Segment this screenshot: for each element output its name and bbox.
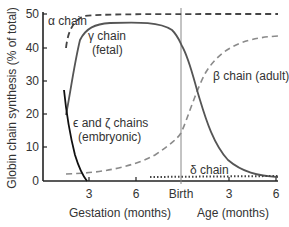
y-axis-label: Globin chain synthesis (% of total) bbox=[5, 7, 19, 188]
x-tick-birth: Birth bbox=[169, 187, 194, 201]
y-tick-30: 30 bbox=[26, 74, 40, 88]
beta-chain-label: β chain (adult) bbox=[213, 69, 289, 83]
x-tick-age-3: 3 bbox=[226, 187, 233, 201]
x-tick-age-6: 6 bbox=[273, 187, 280, 201]
alpha-chain-label: α chain bbox=[48, 14, 87, 28]
y-tick-20: 20 bbox=[26, 107, 40, 121]
x-axis-label-gestation: Gestation (months) bbox=[69, 206, 171, 220]
y-tick-0: 0 bbox=[32, 174, 39, 188]
y-tick-50: 50 bbox=[26, 7, 40, 21]
x-axis-label-age: Age (months) bbox=[197, 206, 269, 220]
epsilon-zeta-chain-label-line2: (embryonic) bbox=[78, 130, 141, 144]
gamma-chain-label-line1: γ chain bbox=[88, 29, 126, 43]
y-tick-40: 40 bbox=[26, 41, 40, 55]
x-tick-gest-3: 3 bbox=[86, 187, 93, 201]
epsilon-zeta-chain-label-line1: ϵ and ζ chains bbox=[73, 116, 148, 130]
x-tick-gest-6: 6 bbox=[133, 187, 140, 201]
y-tick-10: 10 bbox=[26, 140, 40, 154]
gamma-chain-label-line2: (fetal) bbox=[92, 43, 123, 57]
globin-synthesis-chart: 50 40 30 20 10 0 3 6 Birth 3 6 Gestation… bbox=[0, 0, 289, 227]
delta-chain-label: δ chain bbox=[190, 163, 229, 177]
